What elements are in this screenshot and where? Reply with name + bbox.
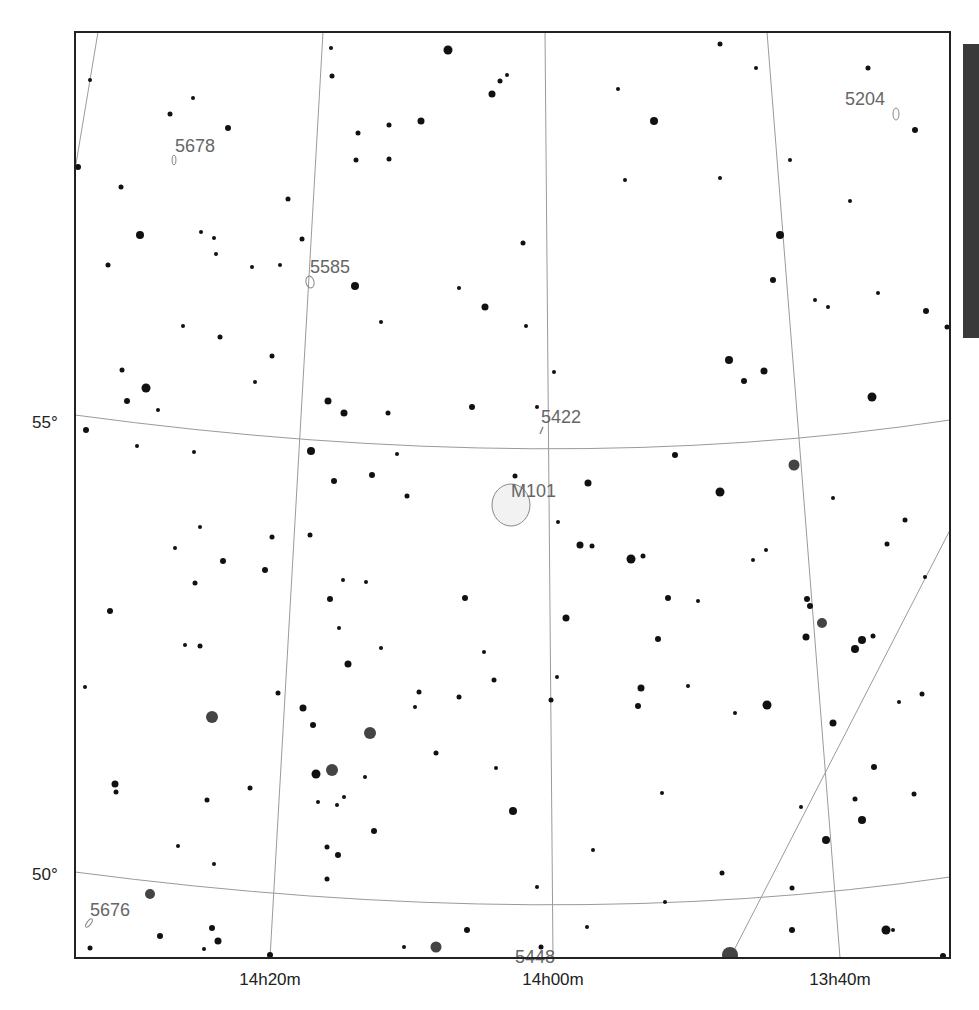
dso-m101[interactable]: M101 [492,481,556,526]
star [387,123,392,128]
star [789,460,800,471]
star [379,646,383,650]
star [341,578,345,582]
star [770,277,776,283]
star [253,380,257,384]
star [509,807,517,815]
star [741,378,747,384]
star [214,252,218,256]
star [330,74,335,79]
star [205,798,210,803]
star [278,263,282,267]
star [356,131,361,136]
star [136,231,144,239]
dec-tick-label: 55° [32,413,58,432]
star [807,603,813,609]
star [616,87,620,91]
star [513,474,518,479]
star [813,298,817,302]
star [494,766,498,770]
star [751,558,755,562]
star [364,727,376,739]
star [945,325,950,330]
dso-5676[interactable]: 5676 [84,900,130,928]
star [342,795,346,799]
dso-5585[interactable]: 5585 [305,257,350,289]
star [363,775,367,779]
star [331,478,337,484]
star [876,291,880,295]
star [193,581,198,586]
star [300,705,307,712]
star [552,370,556,374]
star [202,947,206,951]
star [135,444,139,448]
grid-line-dec-50 [75,872,950,905]
star [107,608,113,614]
star [868,393,877,402]
dso-label: 5676 [90,900,130,920]
star [482,650,486,654]
star [114,790,119,795]
galaxy-ellipse-icon [305,275,316,289]
star [371,828,377,834]
star [858,636,866,644]
dso-5422[interactable]: 5422 [540,407,581,434]
star [418,118,425,125]
star [199,230,203,234]
star [209,925,215,931]
star [218,335,223,340]
star [335,803,339,807]
star [866,66,871,71]
grid-line-ra-13h40m [767,32,840,958]
star [482,304,489,311]
star [300,237,305,242]
star [88,946,93,951]
star [183,643,187,647]
star [789,927,795,933]
star [851,645,859,653]
star [790,886,795,891]
star [337,626,341,630]
star [457,286,461,290]
star [106,263,111,268]
dso-label: 5678 [175,136,215,156]
star [369,472,375,478]
star [923,575,927,579]
star [325,398,332,405]
star [831,496,835,500]
star [663,900,667,904]
deep-sky-objects: 5678558552045422M10156765448 [84,89,899,967]
dso-label: M101 [511,481,556,501]
star [521,241,526,246]
star [830,720,837,727]
star [761,368,768,375]
star [192,450,196,454]
galaxy-ellipse-icon [172,155,176,165]
star [198,525,202,529]
star [395,452,399,456]
star [462,595,468,601]
star [650,117,658,125]
star [871,634,876,639]
star [307,447,315,455]
star [176,844,180,848]
star [157,933,163,939]
star [173,546,177,550]
star [555,675,559,679]
star [351,282,359,290]
dso-label: 5585 [310,257,350,277]
dso-5678[interactable]: 5678 [172,136,215,165]
star [405,494,410,499]
star [885,542,890,547]
star [754,66,758,70]
grid-line-boundary-line [730,530,950,958]
dso-label: 5422 [541,407,581,427]
star [897,700,901,704]
side-scroll-bar[interactable] [963,44,979,338]
star [276,691,281,696]
dso-5204[interactable]: 5204 [845,89,899,120]
star [310,722,316,728]
star [270,354,275,359]
star [903,518,908,523]
